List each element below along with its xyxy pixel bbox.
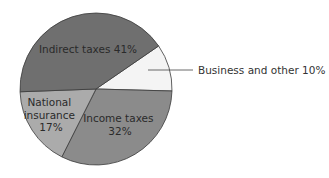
label-indirect-taxes: Indirect taxes 41%: [39, 43, 137, 55]
pie-chart: Indirect taxes 41% National insurance 17…: [0, 0, 329, 178]
label-business-and-other: Business and other 10%: [198, 64, 325, 76]
pie-slices: [20, 13, 172, 165]
